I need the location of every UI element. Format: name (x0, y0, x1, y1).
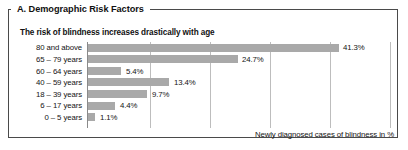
chart-row: 40 – 59 years 13.4% (0, 77, 408, 89)
chart-row: 0 – 5 years 1.1% (0, 112, 408, 124)
chart-bar (88, 78, 169, 86)
chart-category-label: 65 – 79 years (0, 54, 82, 65)
chart-value-label: 4.4% (120, 100, 137, 111)
chart-category-label: 80 and above (0, 42, 82, 53)
chart-axis-caption: Newly diagnosed cases of blindness in % (255, 130, 394, 139)
panel-title: A. Demographic Risk Factors (17, 3, 144, 15)
chart-value-label: 24.7% (242, 54, 264, 65)
chart-value-label: 1.1% (100, 112, 117, 123)
chart-subtitle: The risk of blindness increases drastica… (20, 28, 215, 37)
chart-plot-area: 80 and above 41.3% 65 – 79 years 24.7% 6… (0, 42, 408, 128)
chart-value-label: 9.7% (152, 89, 169, 100)
chart-value-label: 13.4% (174, 77, 196, 88)
chart-value-label: 5.4% (126, 66, 143, 77)
chart-bar (88, 102, 115, 110)
chart-bar (88, 90, 147, 98)
chart-bar (88, 44, 339, 52)
chart-category-label: 0 – 5 years (0, 112, 82, 123)
chart-bar (88, 113, 95, 121)
chart-category-label: 60 – 64 years (0, 66, 82, 77)
chart-category-label: 18 – 39 years (0, 89, 82, 100)
chart-bar (88, 55, 238, 63)
chart-value-label: 41.3% (343, 42, 365, 53)
chart-category-label: 40 – 59 years (0, 77, 82, 88)
chart-row: 60 – 64 years 5.4% (0, 65, 408, 77)
chart-row: 65 – 79 years 24.7% (0, 54, 408, 66)
chart-category-label: 6 – 17 years (0, 100, 82, 111)
chart-row: 6 – 17 years 4.4% (0, 100, 408, 112)
chart-row: 18 – 39 years 9.7% (0, 88, 408, 100)
chart-bar (88, 67, 121, 75)
chart-bar-rows: 80 and above 41.3% 65 – 79 years 24.7% 6… (0, 42, 408, 123)
chart-row: 80 and above 41.3% (0, 42, 408, 54)
